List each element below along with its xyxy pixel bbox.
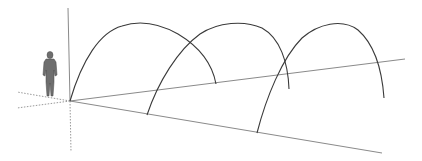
- arch-1[interactable]: [70, 23, 216, 101]
- scale-person-figure[interactable]: [43, 52, 57, 97]
- axis-dotted-left-upper: [17, 92, 70, 101]
- axis-red: [70, 101, 382, 153]
- axis-vertical: [68, 8, 70, 101]
- scene-canvas[interactable]: [0, 0, 422, 161]
- viewport[interactable]: [0, 0, 422, 161]
- axis-green: [70, 59, 405, 101]
- axis-dotted-down: [70, 101, 71, 152]
- arch-3[interactable]: [257, 24, 384, 133]
- axis-dotted-left-lower: [17, 101, 70, 108]
- arch-2[interactable]: [147, 23, 289, 115]
